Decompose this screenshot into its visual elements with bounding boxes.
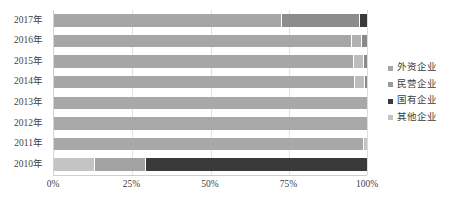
x-axis: 0%25%50%75%100% bbox=[53, 179, 367, 197]
bar-segment[interactable] bbox=[351, 35, 361, 48]
bar-row bbox=[54, 51, 367, 72]
legend-item-label: 外资企业 bbox=[397, 63, 437, 73]
legend-swatch-icon bbox=[388, 82, 393, 87]
y-axis-tick-label: 2012年 bbox=[0, 113, 48, 134]
bar-row bbox=[54, 113, 367, 134]
bar-segment[interactable] bbox=[94, 158, 145, 171]
bar-segment[interactable] bbox=[281, 14, 359, 27]
legend-swatch-icon bbox=[388, 66, 393, 71]
y-axis-tick-label: 2014年 bbox=[0, 72, 48, 93]
x-axis-tick-label: 0% bbox=[47, 179, 60, 190]
legend-item[interactable]: 外资企业 bbox=[388, 62, 458, 74]
bar-segment[interactable] bbox=[54, 35, 351, 48]
bar-segment[interactable] bbox=[54, 138, 363, 151]
bar-row bbox=[54, 93, 367, 114]
x-axis-line bbox=[53, 175, 367, 176]
plot-area bbox=[53, 10, 367, 175]
bar-track bbox=[54, 76, 367, 89]
y-axis-tick-label: 2015年 bbox=[0, 51, 48, 72]
legend-item-label: 国有企业 bbox=[397, 96, 437, 106]
bar-segment[interactable] bbox=[361, 35, 367, 48]
bar-row bbox=[54, 154, 367, 175]
bar-segment[interactable] bbox=[54, 97, 367, 110]
y-axis-tick-label: 2011年 bbox=[0, 134, 48, 155]
bar-segment[interactable] bbox=[359, 14, 367, 27]
gridline bbox=[367, 10, 368, 175]
bar-track bbox=[54, 158, 367, 171]
bar-segment[interactable] bbox=[363, 55, 367, 68]
bar-segment[interactable] bbox=[354, 76, 364, 89]
bar-segment[interactable] bbox=[54, 117, 367, 130]
bar-track bbox=[54, 35, 367, 48]
bar-segment[interactable] bbox=[54, 55, 353, 68]
y-axis-tick-label: 2013年 bbox=[0, 93, 48, 114]
y-axis: 2017年2016年2015年2014年2013年2012年2011年2010年 bbox=[0, 10, 48, 175]
bar-row bbox=[54, 72, 367, 93]
bar-row bbox=[54, 10, 367, 31]
bar-row bbox=[54, 134, 367, 155]
legend-item[interactable]: 民营企业 bbox=[388, 79, 458, 91]
bar-track bbox=[54, 138, 367, 151]
bar-segment[interactable] bbox=[54, 76, 354, 89]
x-axis-tick-label: 100% bbox=[356, 179, 378, 190]
y-axis-tick-label: 2017年 bbox=[0, 10, 48, 31]
bar-segment[interactable] bbox=[353, 55, 363, 68]
bar-segment[interactable] bbox=[54, 14, 281, 27]
legend: 外资企业民营企业国有企业其他企业 bbox=[388, 62, 458, 124]
bar-track bbox=[54, 55, 367, 68]
bar-row bbox=[54, 31, 367, 52]
legend-item-label: 其他企业 bbox=[397, 113, 437, 123]
x-axis-tick-label: 25% bbox=[123, 179, 140, 190]
stacked-bar-chart: 2017年2016年2015年2014年2013年2012年2011年2010年… bbox=[0, 0, 458, 212]
legend-item[interactable]: 国有企业 bbox=[388, 95, 458, 107]
bar-segment[interactable] bbox=[364, 76, 367, 89]
bar-segment[interactable] bbox=[145, 158, 367, 171]
x-axis-tick-label: 50% bbox=[201, 179, 218, 190]
bar-track bbox=[54, 14, 367, 27]
y-axis-tick-label: 2010年 bbox=[0, 154, 48, 175]
x-axis-tick-label: 75% bbox=[280, 179, 297, 190]
bar-segment[interactable] bbox=[363, 138, 367, 151]
legend-item[interactable]: 其他企业 bbox=[388, 112, 458, 124]
bar-segment[interactable] bbox=[54, 158, 94, 171]
legend-swatch-icon bbox=[388, 115, 393, 120]
legend-swatch-icon bbox=[388, 99, 393, 104]
bar-track bbox=[54, 97, 367, 110]
y-axis-tick-label: 2016年 bbox=[0, 31, 48, 52]
legend-item-label: 民营企业 bbox=[397, 80, 437, 90]
bar-track bbox=[54, 117, 367, 130]
bar-series-group bbox=[54, 10, 367, 175]
